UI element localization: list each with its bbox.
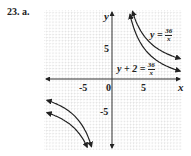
graph <box>0 0 191 156</box>
axis-label-x: x <box>178 81 184 93</box>
tick-y-5: 5 <box>104 43 109 54</box>
equation-1: y = 36 x <box>150 28 172 43</box>
axis-label-y: y <box>104 10 109 22</box>
tick-x-0: 0 <box>106 82 111 93</box>
tick-x-5: 5 <box>141 82 146 93</box>
equation-2: y + 2 = 36 x <box>117 62 155 77</box>
tick-x-neg5: -5 <box>79 82 87 93</box>
tick-y-neg5: -5 <box>100 106 108 117</box>
